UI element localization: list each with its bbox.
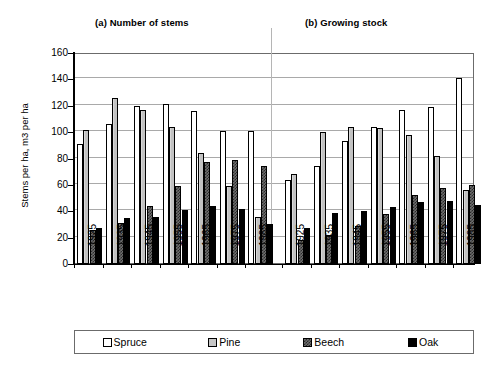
bar-spruce-1985 [456, 78, 462, 264]
x-tick-label: 1985 [259, 224, 269, 270]
x-tick-label: 1945 [145, 224, 155, 270]
legend-label-pine: Pine [219, 336, 240, 348]
x-tick [425, 264, 426, 268]
legend-label-spruce: Spruce [114, 336, 147, 348]
x-tick-label: 1925 [88, 224, 98, 270]
bar-spruce-1945 [134, 106, 140, 264]
y-axis-label: Stems per ha, m3 per ha [19, 66, 30, 246]
x-tick [131, 264, 132, 268]
y-tick-label: 20 [38, 233, 68, 243]
bar-spruce-1975 [220, 131, 226, 264]
x-tick-label: 1975 [439, 224, 449, 270]
bar-spruce-1945 [342, 141, 348, 264]
x-tick-label: 1955 [382, 224, 392, 270]
y-tick [68, 53, 74, 54]
x-tick-label: 1935 [325, 224, 335, 270]
x-tick [396, 264, 397, 268]
bar-spruce-1935 [314, 166, 320, 264]
x-tick-label: 1965 [410, 224, 420, 270]
x-tick-label: 1955 [174, 224, 184, 270]
legend-item-spruce: Spruce [75, 336, 175, 348]
gridline [75, 104, 473, 105]
legend-swatch-beech [303, 338, 312, 347]
legend-item-pine: Pine [175, 336, 275, 348]
y-axis-label-main: Stems per ha, m [19, 138, 30, 208]
y-axis-tick-labels: 020406080100120140160 [34, 0, 68, 366]
chart-legend: Spruce Pine Beech Oak [74, 330, 474, 354]
legend-item-beech: Beech [274, 336, 374, 348]
x-tick [217, 264, 218, 268]
x-tick [311, 264, 312, 268]
x-tick-label: 1925 [296, 224, 306, 270]
y-tick-label: 80 [38, 154, 68, 164]
bar-spruce-1955 [163, 104, 169, 264]
legend-swatch-spruce [103, 338, 112, 347]
y-axis-label-tail: per ha [19, 103, 30, 133]
bar-spruce-1925 [77, 144, 83, 264]
y-tick [68, 211, 74, 212]
chart-figure: (a) Number of stems (b) Growing stock St… [0, 0, 492, 366]
x-tick [103, 264, 104, 268]
y-tick [68, 238, 74, 239]
x-tick [368, 264, 369, 268]
y-tick [68, 106, 74, 107]
legend-swatch-pine [208, 338, 217, 347]
bar-spruce-1985 [248, 131, 254, 264]
x-tick [282, 264, 283, 268]
bar-spruce-1965 [191, 111, 197, 264]
bar-spruce-1975 [428, 107, 434, 264]
legend-label-oak: Oak [419, 336, 438, 348]
y-tick [68, 185, 74, 186]
x-tick [453, 264, 454, 268]
panel-b-title: (b) Growing stock [305, 17, 387, 28]
x-tick [160, 264, 161, 268]
y-tick-label: 100 [38, 127, 68, 137]
x-tick [188, 264, 189, 268]
x-tick [74, 264, 75, 268]
bar-spruce-1925 [285, 180, 291, 264]
x-tick-label: 1965 [202, 224, 212, 270]
x-tick-label: 1935 [117, 224, 127, 270]
y-tick-label: 140 [38, 74, 68, 84]
y-tick-label: 40 [38, 206, 68, 216]
x-tick-label: 1945 [353, 224, 363, 270]
y-tick-label: 0 [38, 259, 68, 269]
legend-swatch-oak [408, 338, 417, 347]
y-tick-label: 160 [38, 48, 68, 58]
bar-spruce-1935 [106, 124, 112, 264]
y-tick-label: 60 [38, 180, 68, 190]
x-tick [245, 264, 246, 268]
bar-spruce-1965 [399, 110, 405, 264]
x-tick-label: 1985 [467, 224, 477, 270]
y-tick-label: 120 [38, 101, 68, 111]
x-tick-label: 1975 [231, 224, 241, 270]
y-tick [68, 79, 74, 80]
y-axis-label-exponent: 3 [19, 133, 30, 138]
y-tick [68, 132, 74, 133]
legend-item-oak: Oak [374, 336, 474, 348]
gridline [75, 77, 473, 78]
x-tick [339, 264, 340, 268]
bar-spruce-1955 [371, 127, 377, 264]
y-tick [68, 159, 74, 160]
legend-label-beech: Beech [314, 336, 344, 348]
panel-a-title: (a) Number of stems [95, 17, 189, 28]
